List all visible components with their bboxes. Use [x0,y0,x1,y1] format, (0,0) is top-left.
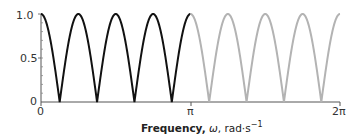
series-gray [191,14,341,102]
x-label-text: Frequency, [141,122,206,134]
x-tick-pi: π [187,106,194,117]
series-black [41,14,191,102]
y-tick-0: 0 [30,96,37,107]
plot-area [0,0,362,137]
x-label-exponent: −1 [251,120,263,129]
x-tick-0: 0 [37,106,44,117]
y-tick-1: 1.0 [16,10,34,21]
x-tick-2pi: 2π [332,106,346,117]
omega-symbol: ω [209,122,218,134]
y-tick-05: 0.5 [20,53,38,64]
x-label-unit: , rad·s [218,122,251,134]
x-axis-label: Frequency, ω, rad·s−1 [141,120,262,134]
